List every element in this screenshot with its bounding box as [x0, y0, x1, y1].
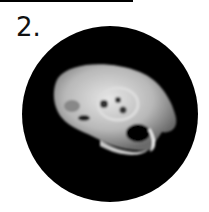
- skull-photo: [0, 0, 209, 212]
